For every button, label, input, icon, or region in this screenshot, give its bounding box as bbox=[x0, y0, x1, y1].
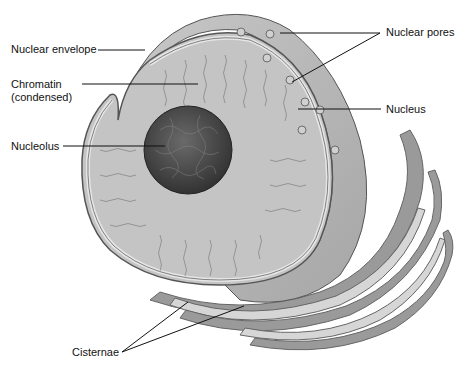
nucleus-diagram: Nuclear envelope Chromatin (condensed) N… bbox=[0, 0, 461, 370]
label-chromatin: Chromatin bbox=[11, 78, 62, 91]
nucleolus-body bbox=[144, 106, 232, 194]
label-nucleus: Nucleus bbox=[386, 103, 426, 116]
label-nuclear-envelope: Nuclear envelope bbox=[11, 43, 97, 56]
label-cisternae: Cisternae bbox=[72, 346, 119, 359]
label-chromatin-condensed: (condensed) bbox=[11, 91, 72, 104]
label-nucleolus: Nucleolus bbox=[11, 140, 59, 153]
label-nuclear-pores: Nuclear pores bbox=[386, 26, 454, 39]
